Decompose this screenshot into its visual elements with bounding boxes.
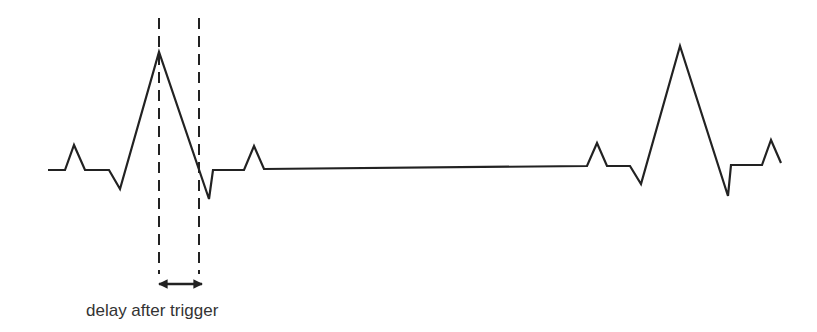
waveform-trace — [48, 46, 781, 199]
delay-caption: delay after trigger — [86, 301, 218, 321]
waveform-diagram — [0, 0, 817, 332]
